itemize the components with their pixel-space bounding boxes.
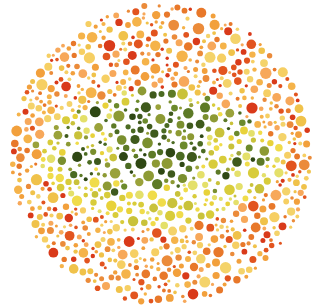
- color-vision-plate: [0, 0, 313, 308]
- dot-plate-image: [0, 0, 313, 308]
